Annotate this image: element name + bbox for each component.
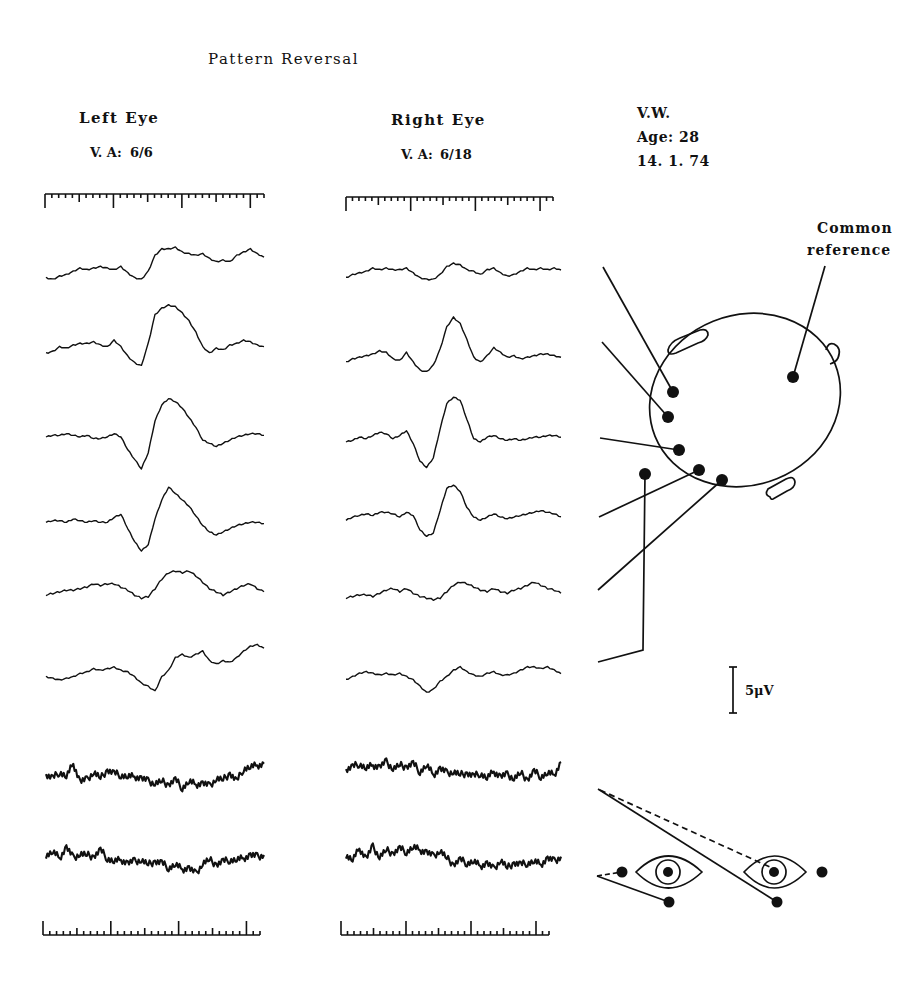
vep-trace-ch6 [46,644,264,690]
left-eye-va-label: V. A: [89,145,122,160]
right-eye-va-label: V. A: [400,147,433,162]
right-bottom-time-axis [341,921,549,935]
lead-wire [598,474,645,662]
ear-left-icon [668,330,708,354]
vep-trace-ch2 [346,317,561,372]
common-reference-label-1: Common [817,220,893,236]
scale-bar-label: 5μV [745,683,775,698]
vep-trace-ch1 [346,263,561,280]
vep-trace-ch2 [46,305,264,366]
vep-trace-ch4 [346,485,561,536]
vep-trace-ch7 [46,762,264,791]
patient-age: Age: 28 [636,129,700,145]
vep-trace-ch6 [346,667,561,693]
right-eye-traces [346,263,561,869]
electrode-dot [817,867,828,878]
patient-initials: V.W. [636,105,671,121]
vep-trace-ch8 [46,845,264,873]
vep-trace-ch3 [46,399,264,469]
vep-figure: Pattern Reversal Left Eye V. A: 6/6 Righ… [0,0,916,1003]
right-eye-heading: Right Eye [391,111,486,129]
left-eye-traces [46,247,264,873]
reference-lead-wire [793,266,825,377]
left-eye-heading: Left Eye [79,109,159,127]
eye-electrode-diagram [597,789,828,908]
vep-trace-ch5 [346,582,561,600]
lead-wire [602,342,668,417]
vep-trace-ch8 [346,843,561,869]
vep-trace-ch7 [346,758,561,780]
figure-title: Pattern Reversal [208,50,359,68]
lead-wire [603,267,673,392]
left-top-time-axis [45,194,264,208]
left-bottom-time-axis [43,921,260,935]
head-montage-diagram [598,266,867,662]
vep-trace-ch3 [346,397,561,467]
recording-date: 14. 1. 74 [637,153,710,169]
right-top-time-axis [346,197,553,211]
lead-wire [600,438,679,450]
vep-trace-ch1 [46,247,264,279]
left-eye-va-value: 6/6 [130,145,153,160]
amplitude-scale-bar: 5μV [729,667,775,713]
common-reference-label-2: reference [807,242,891,258]
head-outline [623,285,867,515]
right-eye-va-value: 6/18 [440,147,472,162]
vep-trace-ch5 [46,571,264,599]
nose-icon [826,344,839,364]
vep-trace-ch4 [46,487,264,551]
lead-wire [598,480,722,590]
